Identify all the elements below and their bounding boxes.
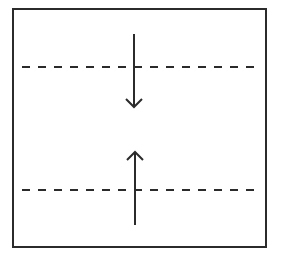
outer-box (13, 9, 266, 247)
down-arrow-icon (126, 34, 142, 107)
up-arrow-icon (127, 152, 143, 225)
diagram-canvas (0, 0, 288, 262)
